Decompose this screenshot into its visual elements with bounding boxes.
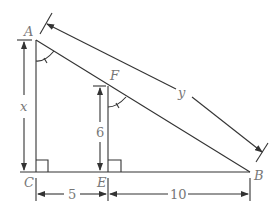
point-label-c: C [24,175,34,190]
dim-y-arrow-end [192,97,262,152]
dim-y-end-tick [256,143,268,162]
right-angle-e-icon [108,160,121,172]
right-angle-c-icon [36,160,48,172]
dim-y-label: y [177,85,186,100]
dim-10-label: 10 [170,187,187,202]
triangle-diagram: x 6 y 5 10 A F C E B [0,0,279,216]
dim-x-label: x [20,99,28,114]
point-label-a: A [23,24,33,39]
dim-y-start-tick [40,13,52,34]
triangle-abc [20,40,250,172]
side-ab [36,40,250,172]
point-label-e: E [96,175,107,190]
point-label-f: F [109,68,120,83]
dim-6-label: 6 [96,125,104,140]
dim-5-label: 5 [68,187,76,202]
point-label-b: B [253,168,264,183]
